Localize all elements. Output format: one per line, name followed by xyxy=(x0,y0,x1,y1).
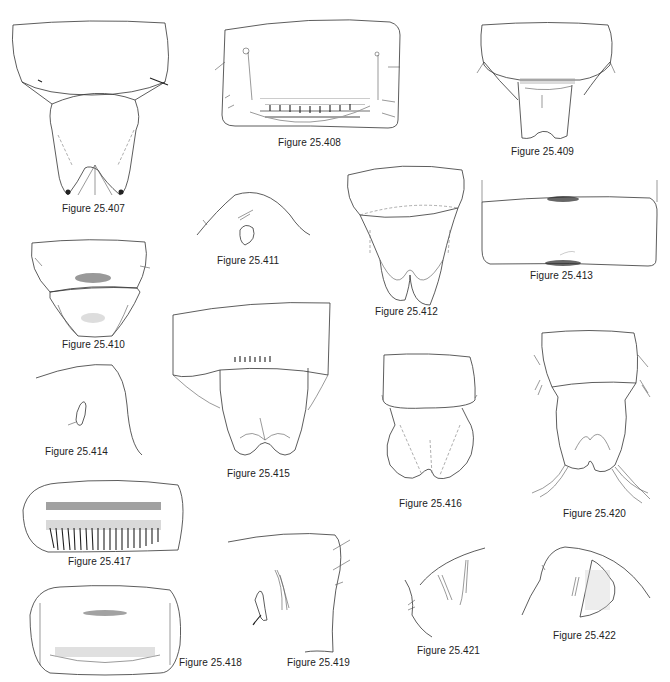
figure-412-drawing xyxy=(340,160,470,310)
figure-419-drawing xyxy=(225,530,345,660)
figure-407-drawing xyxy=(0,0,220,200)
figure-caption-422: Figure 25.422 xyxy=(553,630,616,641)
figure-caption-411: Figure 25.411 xyxy=(217,255,279,266)
figure-caption-415: Figure 25.415 xyxy=(227,468,290,479)
illustration-plate: Figure 25.407 Figure 25.408 xyxy=(0,0,670,682)
figure-418-drawing xyxy=(25,585,185,680)
figure-caption-417: Figure 25.417 xyxy=(68,556,131,567)
figure-414-drawing xyxy=(30,360,150,460)
figure-caption-407: Figure 25.407 xyxy=(62,203,125,214)
figure-411-drawing xyxy=(195,190,315,260)
figure-caption-414: Figure 25.414 xyxy=(45,446,108,457)
figure-caption-410: Figure 25.410 xyxy=(62,339,125,350)
figure-409-drawing xyxy=(460,0,670,150)
figure-417-drawing xyxy=(18,480,188,555)
figure-caption-408: Figure 25.408 xyxy=(278,137,341,148)
figure-caption-421: Figure 25.421 xyxy=(417,645,480,656)
figure-422-drawing xyxy=(520,540,660,620)
figure-caption-409: Figure 25.409 xyxy=(511,146,574,157)
figure-caption-412: Figure 25.412 xyxy=(375,306,438,317)
figure-408-drawing xyxy=(210,0,460,140)
figure-caption-413: Figure 25.413 xyxy=(530,270,593,281)
figure-caption-416: Figure 25.416 xyxy=(399,498,462,509)
figure-413-drawing xyxy=(480,180,670,270)
figure-410-drawing xyxy=(0,220,160,340)
figure-415-drawing xyxy=(170,300,340,470)
figure-420-drawing xyxy=(530,325,670,505)
figure-416-drawing xyxy=(380,350,490,490)
figure-caption-420: Figure 25.420 xyxy=(563,508,626,519)
figure-421-drawing xyxy=(400,545,500,640)
figure-caption-419: Figure 25.419 xyxy=(287,657,350,668)
